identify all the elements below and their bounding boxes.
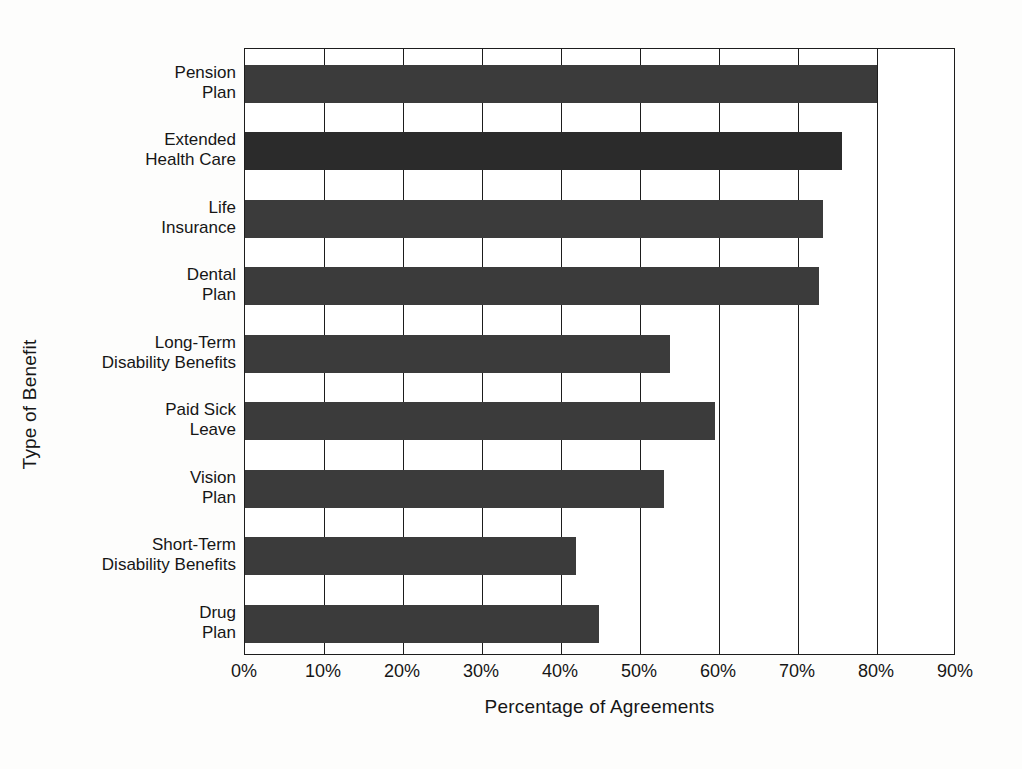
y-axis-tick-labels: Pension PlanExtended Health CareLife Ins… [60,48,236,655]
y-axis-tick-label: Pension Plan [60,63,236,103]
y-axis-title-text: Type of Benefit [19,340,41,470]
x-axis-tick-label: 40% [525,661,595,682]
x-axis-tick-labels: 0%10%20%30%40%50%60%70%80%90% [244,661,955,691]
bar-chart: Type of Benefit Pension PlanExtended Hea… [0,0,1022,769]
x-axis-title-text: Percentage of Agreements [485,696,715,717]
x-axis-title: Percentage of Agreements [244,696,955,718]
x-axis-tick-label: 20% [367,661,437,682]
y-axis-tick-label: Paid Sick Leave [60,400,236,440]
bar [245,65,877,103]
y-axis-tick-label: Long-Term Disability Benefits [60,333,236,373]
bar [245,335,670,373]
x-axis-tick-label: 70% [762,661,832,682]
y-axis-tick-label: Short-Term Disability Benefits [60,535,236,575]
y-axis-tick-label: Dental Plan [60,265,236,305]
bar [245,537,576,575]
y-axis-title: Type of Benefit [0,0,60,769]
x-axis-tick-label: 60% [683,661,753,682]
bar [245,402,715,440]
bar [245,132,842,170]
bar [245,470,664,508]
x-axis-tick-label: 10% [288,661,358,682]
gridline [877,49,878,654]
x-axis-tick-label: 90% [920,661,990,682]
y-axis-tick-label: Life Insurance [60,198,236,238]
bar [245,200,823,238]
bar [245,267,819,305]
x-axis-tick-label: 50% [604,661,674,682]
y-axis-tick-label: Extended Health Care [60,130,236,170]
y-axis-tick-label: Vision Plan [60,468,236,508]
x-axis-tick-label: 30% [446,661,516,682]
y-axis-tick-label: Drug Plan [60,603,236,643]
x-axis-tick-label: 0% [209,661,279,682]
x-axis-tick-label: 80% [841,661,911,682]
bar [245,605,599,643]
plot-area [244,48,955,655]
